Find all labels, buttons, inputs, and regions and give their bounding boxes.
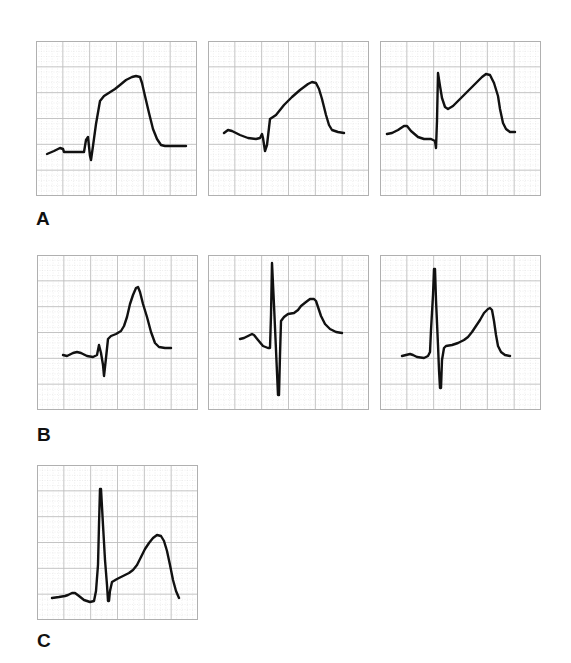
ecg-trace: [402, 269, 510, 388]
ecg-trace: [387, 73, 515, 148]
label-a: A: [36, 209, 50, 228]
label-b: B: [37, 425, 51, 444]
label-c: C: [37, 631, 51, 650]
ecg-grid: [380, 41, 541, 196]
ecg-trace: [52, 489, 179, 602]
ecg-grid: [380, 255, 541, 410]
ecg-grid: [37, 255, 198, 410]
ecg-panel-a3: [380, 41, 541, 196]
ecg-grid: [36, 41, 197, 196]
ecg-trace: [240, 263, 342, 395]
ecg-panel-c1: [37, 465, 198, 620]
ecg-grid: [37, 465, 198, 620]
ecg-panel-b2: [208, 255, 369, 410]
ecg-panel-b1: [37, 255, 198, 410]
ecg-panel-a1: [36, 41, 197, 196]
ecg-panel-a2: [208, 41, 369, 196]
ecg-panel-b3: [380, 255, 541, 410]
ecg-grid: [208, 41, 369, 196]
ecg-grid: [208, 255, 369, 410]
